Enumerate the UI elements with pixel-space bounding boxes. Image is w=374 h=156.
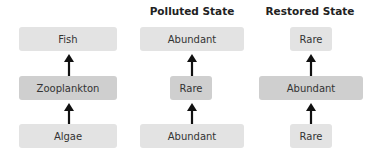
box-restored-top: Rare (290, 27, 332, 51)
box-polluted-top: Abundant (140, 27, 244, 51)
box-algae: Algae (19, 124, 117, 148)
arrow-up-icon (64, 103, 74, 125)
restored-state-title: Restored State (255, 5, 365, 17)
box-restored-bottom: Rare (290, 124, 332, 148)
arrow-up-icon (187, 103, 197, 125)
arrow-up-icon (64, 54, 74, 76)
box-polluted-bottom: Abundant (140, 124, 244, 148)
arrow-up-icon (306, 103, 316, 125)
polluted-state-title: Polluted State (137, 5, 247, 17)
arrow-up-icon (306, 54, 316, 76)
box-polluted-middle: Rare (170, 76, 212, 100)
box-restored-middle: Abundant (259, 76, 363, 100)
box-zooplankton: Zooplankton (19, 76, 117, 100)
box-fish: Fish (19, 27, 117, 51)
arrow-up-icon (187, 54, 197, 76)
